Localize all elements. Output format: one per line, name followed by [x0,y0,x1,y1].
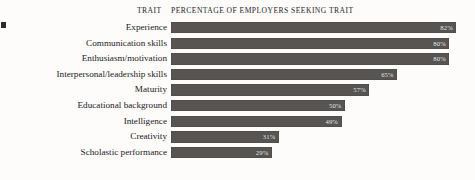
bar-track: 82% [171,22,475,33]
bar: 29% [171,147,272,158]
bar-track: 31% [171,131,475,142]
bar-track: 80% [171,38,475,49]
bar-row: Communication skills80% [0,37,475,53]
bar-track: 65% [171,69,475,80]
bar-value-label: 31% [263,131,279,142]
trait-column-header: TRAIT [137,6,162,16]
bar: 80% [171,38,449,49]
bar-value-label: 82% [440,22,456,33]
bar-track: 29% [171,147,475,158]
bar-value-label: 29% [256,147,272,158]
bar-row: Educational background50% [0,99,475,115]
bar: 80% [171,53,449,64]
bar: 65% [171,69,397,80]
bar: 50% [171,100,345,111]
bar-track: 57% [171,84,475,95]
chart-header: TRAIT PERCENTAGE OF EMPLOYERS SEEKING TR… [0,6,475,18]
bar-row: Scholastic performance29% [0,146,475,162]
bar-track: 50% [171,100,475,111]
bar-row: Intelligence49% [0,115,475,131]
bar-value-label: 57% [353,84,369,95]
percentage-column-header: PERCENTAGE OF EMPLOYERS SEEKING TRAIT [171,6,354,16]
bar-track: 49% [171,116,475,127]
bar-category-label: Educational background [7,99,167,112]
bar-category-label: Experience [7,21,167,34]
bar: 82% [171,22,456,33]
bar-category-label: Intelligence [7,115,167,128]
bar-category-label: Creativity [7,130,167,143]
bar-value-label: 80% [433,53,449,64]
bar-value-label: 50% [329,100,345,111]
bar-value-label: 80% [433,38,449,49]
bar: 49% [171,116,342,127]
bar-category-label: Interpersonal/leadership skills [7,68,167,81]
bar-row: Interpersonal/leadership skills65% [0,68,475,84]
bar-rows: Experience82%Communication skills80%Enth… [0,21,475,161]
bar: 57% [171,84,369,95]
bar: 31% [171,131,279,142]
bar-category-label: Scholastic performance [7,146,167,159]
bar-row: Enthusiasm/motivation80% [0,52,475,68]
bar-row: Experience82% [0,21,475,37]
bar-category-label: Maturity [7,83,167,96]
bar-category-label: Enthusiasm/motivation [7,52,167,65]
bar-row: Maturity57% [0,83,475,99]
bar-row: Creativity31% [0,130,475,146]
bar-category-label: Communication skills [7,37,167,50]
bar-value-label: 65% [381,69,397,80]
bar-track: 80% [171,53,475,64]
bar-value-label: 49% [325,116,341,127]
horizontal-bar-chart: TRAIT PERCENTAGE OF EMPLOYERS SEEKING TR… [0,0,475,180]
